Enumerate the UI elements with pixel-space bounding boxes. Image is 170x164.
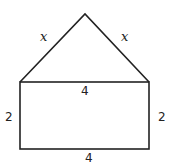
house-diagram: x x 4 4 2 2 <box>0 0 170 164</box>
rect-bottom-label: 4 <box>85 151 93 164</box>
rect-top-label: 4 <box>81 84 89 98</box>
roof-right-label: x <box>121 29 129 44</box>
roof-left-label: x <box>40 29 48 44</box>
rect-left-label: 2 <box>5 110 13 124</box>
triangle-roof <box>20 14 149 82</box>
rect-right-label: 2 <box>158 110 166 124</box>
